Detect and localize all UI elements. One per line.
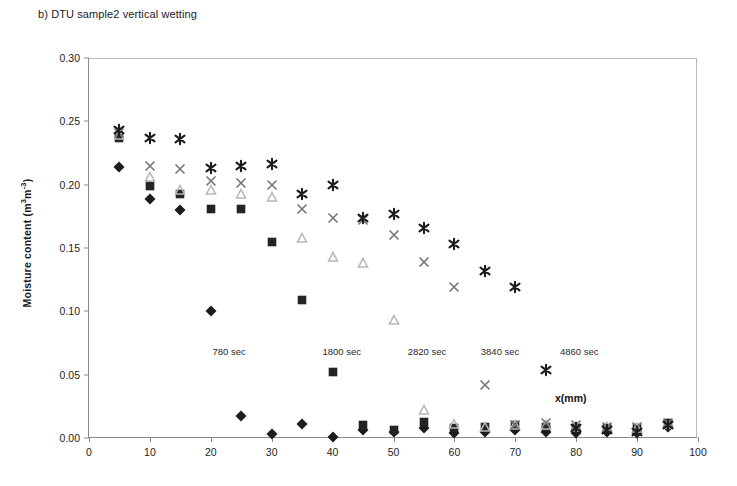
data-point-cross bbox=[357, 214, 370, 227]
data-point-square bbox=[326, 366, 339, 379]
data-point-triangle bbox=[143, 171, 156, 184]
time-annotation: 780 sec bbox=[212, 346, 245, 357]
data-point-cross bbox=[387, 229, 400, 242]
data-point-triangle bbox=[387, 314, 400, 327]
data-point-diamond bbox=[296, 418, 309, 431]
data-point-diamond bbox=[661, 420, 674, 433]
data-point-cross bbox=[235, 177, 248, 190]
data-point-cross bbox=[265, 178, 278, 191]
data-point-asterisk bbox=[661, 419, 674, 432]
data-point-cross bbox=[448, 281, 461, 294]
data-point-asterisk bbox=[204, 162, 217, 175]
x-axis-tick-mark bbox=[89, 437, 90, 442]
data-point-asterisk bbox=[448, 238, 461, 251]
data-point-asterisk bbox=[174, 133, 187, 146]
data-point-square bbox=[204, 202, 217, 215]
data-point-triangle bbox=[631, 421, 644, 434]
data-point-diamond bbox=[539, 425, 552, 438]
data-point-triangle bbox=[570, 420, 583, 433]
data-point-cross bbox=[539, 416, 552, 429]
y-axis-tick-label: 0.05 bbox=[60, 369, 80, 381]
time-annotation: 4860 sec bbox=[560, 346, 599, 357]
data-point-square bbox=[661, 416, 674, 429]
data-point-triangle bbox=[600, 420, 613, 433]
data-point-diamond bbox=[143, 192, 156, 205]
data-point-cross bbox=[600, 420, 613, 433]
data-point-triangle bbox=[113, 129, 126, 142]
time-annotation: 2820 sec bbox=[408, 346, 447, 357]
data-point-square bbox=[478, 420, 491, 433]
data-point-square bbox=[539, 420, 552, 433]
data-point-triangle bbox=[265, 191, 278, 204]
plot-top-border bbox=[89, 58, 697, 59]
data-point-cross bbox=[204, 174, 217, 187]
data-point-cross bbox=[174, 163, 187, 176]
x-axis-tick-mark bbox=[211, 437, 212, 442]
data-point-diamond bbox=[204, 305, 217, 318]
x-axis-tick-mark bbox=[394, 437, 395, 442]
data-point-diamond bbox=[417, 421, 430, 434]
x-axis-tick-mark bbox=[515, 437, 516, 442]
data-point-square bbox=[174, 187, 187, 200]
data-point-cross bbox=[143, 159, 156, 172]
x-axis-tick-label: 10 bbox=[144, 446, 156, 458]
data-point-square bbox=[113, 131, 126, 144]
data-point-asterisk bbox=[265, 158, 278, 171]
x-axis-tick-label: 100 bbox=[689, 446, 707, 458]
x-axis-tick-label: 30 bbox=[266, 446, 278, 458]
data-point-triangle bbox=[478, 420, 491, 433]
data-point-cross bbox=[631, 420, 644, 433]
data-point-triangle bbox=[296, 231, 309, 244]
data-point-triangle bbox=[357, 257, 370, 270]
x-axis-tick-mark bbox=[454, 437, 455, 442]
data-point-square bbox=[600, 421, 613, 434]
time-annotation: 3840 sec bbox=[481, 346, 520, 357]
time-annotation: 1800 sec bbox=[322, 346, 361, 357]
x-axis-tick-mark bbox=[333, 437, 334, 442]
y-axis-tick-label: 0.20 bbox=[60, 179, 80, 191]
data-point-diamond bbox=[600, 425, 613, 438]
x-axis-tick-mark bbox=[272, 437, 273, 442]
data-point-square bbox=[570, 421, 583, 434]
y-axis-tick-mark bbox=[84, 248, 89, 249]
data-point-square bbox=[631, 421, 644, 434]
figure-caption: b) DTU sample2 vertical wetting bbox=[38, 8, 197, 20]
data-point-cross bbox=[296, 202, 309, 215]
y-axis-tick-label: 0.30 bbox=[60, 52, 80, 64]
data-point-square bbox=[296, 293, 309, 306]
data-point-triangle bbox=[661, 418, 674, 431]
data-point-square bbox=[235, 202, 248, 215]
data-point-diamond bbox=[174, 204, 187, 217]
data-point-square bbox=[417, 415, 430, 428]
x-axis-tick-label: 50 bbox=[388, 446, 400, 458]
data-point-cross bbox=[509, 419, 522, 432]
data-point-cross bbox=[570, 419, 583, 432]
data-point-triangle bbox=[539, 419, 552, 432]
x-axis-tick-mark bbox=[150, 437, 151, 442]
y-axis-tick-mark bbox=[84, 121, 89, 122]
data-point-cross bbox=[478, 378, 491, 391]
y-axis-tick-label: 0.15 bbox=[60, 242, 80, 254]
data-point-diamond bbox=[113, 160, 126, 173]
data-point-diamond bbox=[478, 425, 491, 438]
x-axis-tick-mark bbox=[576, 437, 577, 442]
data-point-square bbox=[448, 421, 461, 434]
x-axis-tick-label: 90 bbox=[631, 446, 643, 458]
data-point-asterisk bbox=[570, 421, 583, 434]
x-axis-tick-mark bbox=[637, 437, 638, 442]
x-axis-tick-label: 40 bbox=[327, 446, 339, 458]
data-point-square bbox=[357, 419, 370, 432]
y-axis-tick-label: 0.10 bbox=[60, 305, 80, 317]
data-point-asterisk bbox=[509, 281, 522, 294]
x-axis-tick-mark bbox=[698, 437, 699, 442]
figure-panel: b) DTU sample2 vertical wetting 0.000.05… bbox=[0, 0, 737, 486]
plot-right-border bbox=[696, 58, 697, 437]
data-point-triangle bbox=[174, 183, 187, 196]
data-point-diamond bbox=[235, 410, 248, 423]
y-axis-tick-mark bbox=[84, 184, 89, 185]
data-point-square bbox=[387, 424, 400, 437]
data-point-asterisk bbox=[417, 221, 430, 234]
y-axis-tick-label: 0.25 bbox=[60, 115, 80, 127]
data-point-triangle bbox=[326, 250, 339, 263]
x-axis-tick-label: 70 bbox=[509, 446, 521, 458]
